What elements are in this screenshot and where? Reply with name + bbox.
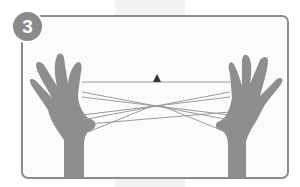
string-loops-icon [82,82,230,132]
string-figure-illustration [23,17,287,177]
right-hand-icon [216,55,283,177]
step-number-badge: 3 [11,10,44,43]
left-hand-icon [30,54,96,177]
illustration-frame [21,15,289,179]
triangle-marker-icon [153,74,161,82]
